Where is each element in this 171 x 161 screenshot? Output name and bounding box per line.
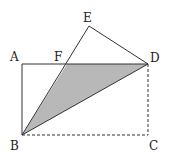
segment-ed [89,26,148,64]
geometry-diagram: A F E D B C [0,0,171,161]
label-a: A [9,50,19,64]
label-e: E [83,11,92,25]
label-c: C [149,139,158,153]
label-d: D [150,51,160,65]
label-f: F [54,50,62,64]
label-b: B [10,139,19,153]
